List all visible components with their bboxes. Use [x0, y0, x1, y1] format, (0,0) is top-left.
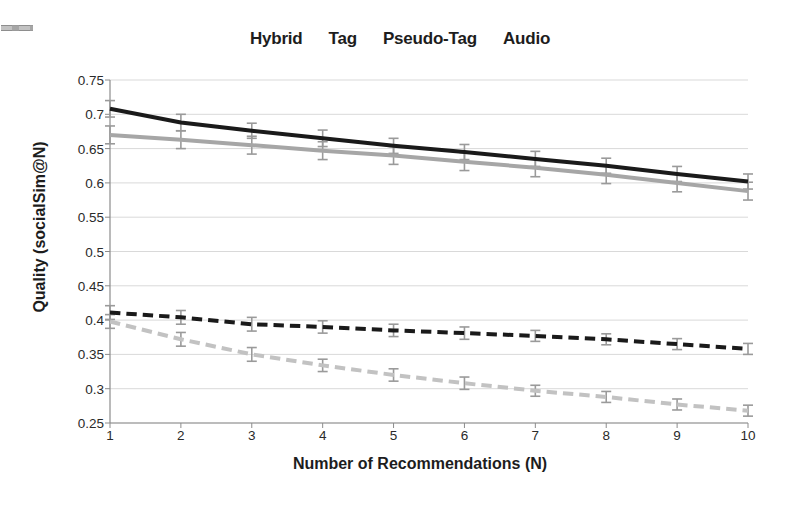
y-tick-label: 0.65 — [40, 141, 104, 156]
x-axis-title: Number of Recommendations (N) — [110, 455, 730, 473]
x-tick-label: 8 — [581, 428, 631, 443]
y-tick-label: 0.7 — [40, 107, 104, 122]
y-tick-label: 0.5 — [40, 244, 104, 259]
x-tick-label: 10 — [723, 428, 773, 443]
series-line-pseudo-tag — [110, 313, 748, 349]
chart-figure: HybridTagPseudo-TagAudio 0.250.30.350.40… — [0, 0, 800, 508]
y-tick-label: 0.3 — [40, 381, 104, 396]
y-tick-label: 0.75 — [40, 73, 104, 88]
series-line-audio — [110, 321, 748, 410]
y-tick-label: 0.35 — [40, 347, 104, 362]
x-axis-tick-labels: 12345678910 — [0, 428, 800, 450]
x-tick-label: 3 — [227, 428, 277, 443]
x-tick-label: 1 — [85, 428, 135, 443]
x-tick-label: 9 — [652, 428, 702, 443]
x-tick-label: 7 — [510, 428, 560, 443]
x-tick-label: 2 — [156, 428, 206, 443]
y-tick-label: 0.6 — [40, 175, 104, 190]
y-tick-label: 0.45 — [40, 278, 104, 293]
y-tick-label: 0.4 — [40, 313, 104, 328]
y-tick-label: 0.55 — [40, 210, 104, 225]
y-axis-title: Quality (socialSim@N) — [31, 67, 49, 387]
series-line-hybrid — [110, 109, 748, 182]
x-tick-label: 5 — [369, 428, 419, 443]
error-bars-tag — [105, 126, 753, 200]
x-tick-label: 6 — [439, 428, 489, 443]
x-tick-label: 4 — [298, 428, 348, 443]
